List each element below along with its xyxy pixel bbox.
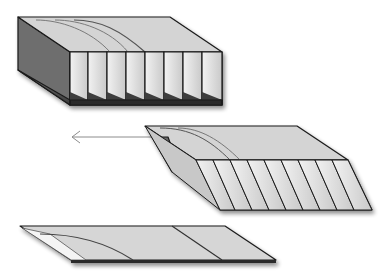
illustration [0,0,392,280]
sheared-block [145,126,372,210]
collapsed-panel [20,226,276,263]
expanded-block [18,17,222,105]
